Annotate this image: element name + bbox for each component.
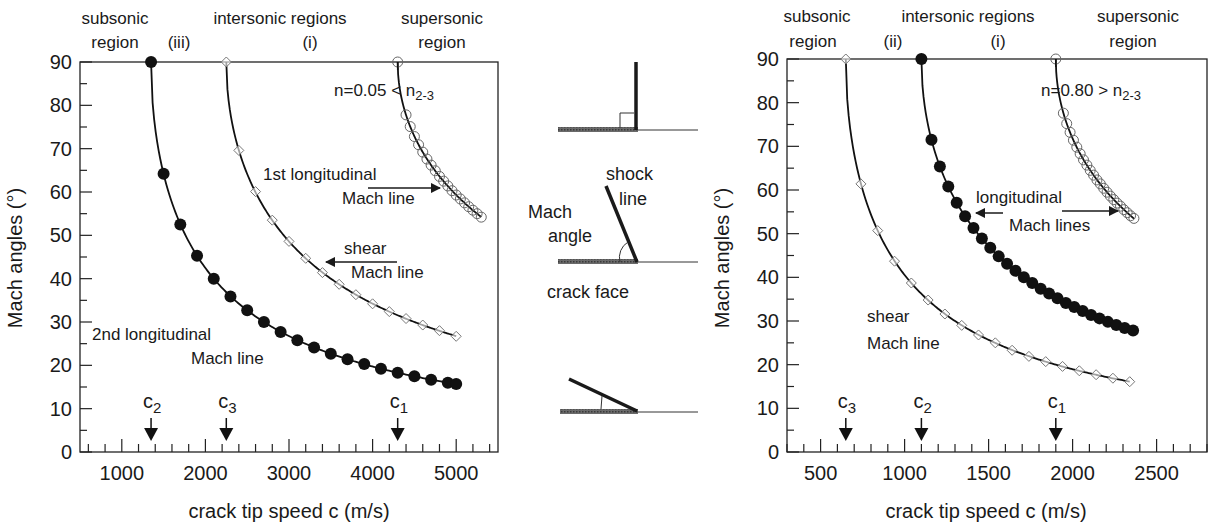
schematic-oblique: shock line Mach angle crack face [528,164,698,302]
left-region-subsonic-line1: subsonic [81,9,149,28]
x-tick-label: 4000 [350,462,395,484]
y-tick-label: 50 [757,223,779,245]
left-y-axis-label: Mach angles (°) [4,188,26,328]
left-region-supersonic-line1: supersonic [401,9,484,28]
y-tick-label: 90 [50,51,72,73]
data-point-open-diamond [974,330,984,340]
right-label-shear: shear [867,307,910,326]
data-point-open-diamond [234,145,244,155]
left-label-1st-longitudinal: 1st longitudinal [263,165,376,184]
data-point-filled-circle [158,168,170,180]
data-point-filled-circle [1127,325,1139,337]
wave-speed-label: c3 [838,390,856,416]
wave-speed-label: c2 [143,390,161,416]
wave-speed-marker-c3: c3 [218,390,236,441]
y-tick-label: 80 [757,92,779,114]
data-point-filled-circle [375,363,387,375]
wave-speed-marker-c2: c2 [913,390,931,441]
left-label-1st-longitudinal-line2: Mach line [342,189,415,208]
right-region-subsonic-line1: subsonic [783,7,851,26]
data-point-filled-circle [951,197,963,209]
right-region-i: (i) [990,32,1005,51]
shock-line-label-1: shock [606,164,654,184]
left-y-axis: 0102030405060708090 [50,51,92,463]
y-tick-label: 10 [50,398,72,420]
mach-angle-schematics: shock line Mach angle crack face [528,62,698,414]
data-point-open-diamond [1024,351,1034,361]
x-tick-label: 1000 [100,462,145,484]
data-point-filled-circle [342,353,354,365]
mach-angle-label-2: angle [548,226,592,246]
right-region-intersonic-line1: intersonic regions [901,7,1034,26]
data-point-filled-circle [984,242,996,254]
data-point-filled-circle [915,53,927,65]
left-x-axis: 10002000300040005000 [88,439,489,484]
data-point-open-diamond [221,57,231,67]
data-point-filled-circle [408,370,420,382]
data-point-open-diamond [384,307,394,317]
data-point-filled-circle [325,348,337,360]
data-point-open-diamond [351,290,361,300]
data-point-filled-circle [934,160,946,172]
right-n-annotation: n=0.80 > n2-3 [1041,81,1141,103]
x-tick-label: 1000 [882,462,927,484]
y-tick-label: 0 [768,441,779,463]
y-tick-label: 90 [757,48,779,70]
crack-face-bar [558,127,638,132]
y-tick-label: 60 [50,181,72,203]
data-point-open-diamond [1058,361,1068,371]
right-x-axis: 5001000150020002500 [787,439,1207,484]
data-point-open-diamond [1007,345,1017,355]
data-point-filled-circle [942,181,954,193]
data-point-open-diamond [1125,377,1135,387]
left-region-supersonic-line2: region [418,33,465,52]
crack-face-bar [560,409,638,414]
right-label-longitudinal: longitudinal [976,188,1062,207]
data-point-filled-circle [208,273,220,285]
down-arrow-icon [144,428,158,441]
right-region-supersonic-line2: region [1109,32,1156,51]
wave-speed-label: c1 [1048,390,1066,416]
data-point-filled-circle [191,250,203,262]
left-x-axis-label: crack tip speed c (m/s) [188,500,389,522]
data-point-open-diamond [401,314,411,324]
y-tick-label: 40 [757,266,779,288]
data-point-open-diamond [841,54,851,64]
schematic-90-degree [558,62,698,132]
mach-angle-label-1: Mach [528,202,572,222]
mach-angle-arc-icon [601,396,602,409]
data-point-filled-circle [275,326,287,338]
wave-speed-marker-c3: c3 [838,390,856,441]
y-tick-label: 50 [50,224,72,246]
right-x-axis-label: crack tip speed c (m/s) [885,500,1086,522]
left-region-i: (i) [302,33,317,52]
schematic-shallow [560,379,698,414]
data-point-filled-circle [976,232,988,244]
y-tick-label: 70 [50,138,72,160]
left-label-shear: shear [344,239,387,258]
data-point-filled-circle [392,367,404,379]
data-point-open-diamond [873,226,883,236]
data-point-open-diamond [434,326,444,336]
left-region-subsonic-line2: region [91,33,138,52]
data-point-filled-circle [258,316,270,328]
right-angle-icon [620,113,634,128]
right-y-axis: 0102030405060708090 [757,48,799,463]
wave-speed-marker-c1: c1 [1048,390,1066,441]
right-label-longitudinal-line2: Mach lines [1009,216,1090,235]
x-tick-label: 5000 [434,462,479,484]
data-point-open-diamond [957,320,967,330]
data-point-filled-circle [925,134,937,146]
right-label-shear-line2: Mach line [867,334,940,353]
figure-canvas: 0102030405060708090 10002000300040005000… [0,0,1215,528]
left-region-iii: (iii) [168,33,191,52]
data-point-open-diamond [856,179,866,189]
y-tick-label: 30 [757,310,779,332]
data-point-filled-circle [308,342,320,354]
down-arrow-icon [219,428,233,441]
y-tick-label: 10 [757,397,779,419]
y-tick-label: 30 [50,311,72,333]
down-arrow-icon [391,428,405,441]
crack-face-label: crack face [547,282,629,302]
y-tick-label: 0 [61,441,72,463]
